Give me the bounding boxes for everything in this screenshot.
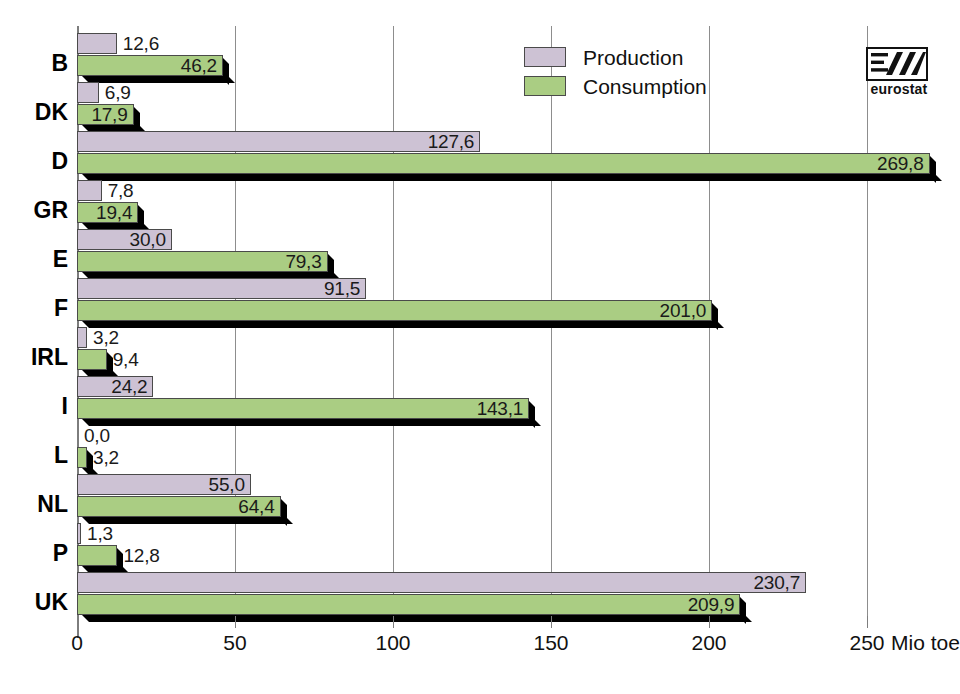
axis-tick bbox=[235, 616, 236, 628]
legend-swatch-consumption bbox=[524, 76, 566, 96]
bar-rect bbox=[77, 131, 480, 152]
category-label-dk: DK bbox=[2, 101, 68, 124]
axis-tick-label: 200 bbox=[691, 632, 726, 653]
bar-value-label: 64,4 bbox=[238, 497, 274, 516]
bar-side bbox=[740, 597, 746, 624]
bar-consumption-nl: 64,4 bbox=[77, 496, 281, 517]
bar-row: 3,29,4 bbox=[77, 327, 942, 376]
bar-value-label: 3,2 bbox=[93, 448, 119, 467]
bar-row: 91,5201,0 bbox=[77, 278, 942, 327]
bar-consumption-dk: 17,9 bbox=[77, 104, 134, 125]
axis-tick-label: 150 bbox=[533, 632, 568, 653]
axis-tick bbox=[77, 616, 78, 628]
axis-tick bbox=[867, 616, 868, 628]
bar-value-label: 79,3 bbox=[285, 252, 321, 271]
bar-shadow bbox=[82, 615, 752, 622]
category-label-irl: IRL bbox=[2, 346, 68, 369]
bar-value-label: 30,0 bbox=[130, 230, 166, 249]
bar-side bbox=[138, 205, 144, 232]
bar-production-p: 1,3 bbox=[77, 523, 81, 544]
category-label-f: F bbox=[2, 297, 68, 320]
bar-consumption-gr: 19,4 bbox=[77, 202, 138, 223]
bar-rect bbox=[77, 349, 107, 370]
bar-production-nl: 55,0 bbox=[77, 474, 251, 495]
bar-value-label: 201,0 bbox=[660, 301, 707, 320]
bar-production-e: 30,0 bbox=[77, 229, 172, 250]
bar-rect bbox=[77, 278, 366, 299]
bar-value-label: 19,4 bbox=[96, 203, 132, 222]
category-label-l: L bbox=[2, 444, 68, 467]
axis-unit-label: Mio toe bbox=[891, 632, 960, 653]
bar-production-b: 12,6 bbox=[77, 33, 117, 54]
axis-tick bbox=[393, 616, 394, 628]
bar-rect bbox=[77, 180, 102, 201]
bar-consumption-b: 46,2 bbox=[77, 55, 223, 76]
bar-production-l: 0,0 bbox=[77, 425, 78, 446]
bar-rect bbox=[77, 327, 87, 348]
legend-item-consumption: Consumption bbox=[524, 73, 707, 99]
bar-production-i: 24,2 bbox=[77, 376, 153, 397]
bar-value-label: 7,8 bbox=[108, 181, 134, 200]
bar-value-label: 12,6 bbox=[123, 34, 159, 53]
bar-consumption-i: 143,1 bbox=[77, 398, 529, 419]
category-label-uk: UK bbox=[2, 591, 68, 614]
bar-row: 230,7209,9 bbox=[77, 572, 942, 621]
bar-consumption-uk: 209,9 bbox=[77, 594, 740, 615]
category-label-e: E bbox=[2, 248, 68, 271]
bar-value-label: 269,8 bbox=[877, 154, 924, 173]
bar-consumption-f: 201,0 bbox=[77, 300, 712, 321]
axis-tick-label: 0 bbox=[71, 632, 83, 653]
category-label-d: D bbox=[2, 150, 68, 173]
bar-row: 6,917,9 bbox=[77, 82, 942, 131]
bar-value-label: 127,6 bbox=[428, 132, 475, 151]
bar-side bbox=[712, 303, 718, 330]
category-label-b: B bbox=[2, 52, 68, 75]
bar-row: 0,03,2 bbox=[77, 425, 942, 474]
value-axis: 050100150200250Mio toe bbox=[77, 628, 942, 678]
bar-value-label: 12,8 bbox=[123, 546, 159, 565]
bar-row: 24,2143,1 bbox=[77, 376, 942, 425]
eurostat-glyph-icon bbox=[868, 49, 926, 79]
bar-row: 30,079,3 bbox=[77, 229, 942, 278]
bar-consumption-irl: 9,4 bbox=[77, 349, 107, 370]
bar-side bbox=[529, 401, 535, 428]
bar-production-f: 91,5 bbox=[77, 278, 366, 299]
category-label-nl: NL bbox=[2, 493, 68, 516]
bar-rect bbox=[77, 33, 117, 54]
bar-row: 12,646,2 bbox=[77, 33, 942, 82]
bar-value-label: 17,9 bbox=[91, 105, 127, 124]
bar-value-label: 9,4 bbox=[113, 350, 139, 369]
eurostat-wordmark: eurostat bbox=[866, 82, 932, 97]
bar-value-label: 55,0 bbox=[209, 475, 245, 494]
bar-production-dk: 6,9 bbox=[77, 82, 99, 103]
plot-area: 12,646,26,917,9127,6269,87,819,430,079,3… bbox=[77, 26, 942, 636]
bar-rect bbox=[77, 594, 740, 615]
bar-row: 127,6269,8 bbox=[77, 131, 942, 180]
chart-legend: Production Consumption bbox=[524, 44, 707, 102]
bar-rect bbox=[77, 447, 87, 468]
legend-item-production: Production bbox=[524, 44, 707, 70]
bar-value-label: 3,2 bbox=[93, 328, 119, 347]
bar-value-label: 209,9 bbox=[688, 595, 735, 614]
category-label-i: I bbox=[2, 395, 68, 418]
bar-value-label: 46,2 bbox=[181, 56, 217, 75]
eurostat-logo: eurostat bbox=[866, 47, 932, 97]
bar-rect bbox=[77, 523, 81, 544]
bar-consumption-d: 269,8 bbox=[77, 153, 930, 174]
bar-production-uk: 230,7 bbox=[77, 572, 806, 593]
bar-row: 1,312,8 bbox=[77, 523, 942, 572]
eurostat-mark-icon bbox=[866, 47, 928, 81]
axis-tick bbox=[551, 616, 552, 628]
bar-production-irl: 3,2 bbox=[77, 327, 87, 348]
axis-tick-label: 100 bbox=[375, 632, 410, 653]
bar-rect bbox=[77, 572, 806, 593]
category-label-p: P bbox=[2, 542, 68, 565]
bar-value-label: 230,7 bbox=[753, 573, 800, 592]
legend-swatch-production bbox=[524, 47, 566, 67]
bar-production-d: 127,6 bbox=[77, 131, 480, 152]
bar-rect bbox=[77, 398, 529, 419]
bar-value-label: 1,3 bbox=[87, 524, 113, 543]
axis-tick bbox=[709, 616, 710, 628]
legend-label-production: Production bbox=[583, 47, 683, 68]
bar-value-label: 91,5 bbox=[324, 279, 360, 298]
